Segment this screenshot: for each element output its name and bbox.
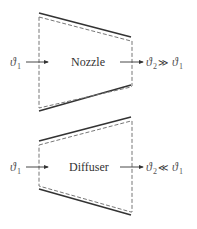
diffuser-compare-subscript: 1 bbox=[179, 167, 183, 176]
nozzle-relation: ≫ bbox=[158, 57, 168, 68]
nozzle-diffuser-figure: ϑ 1 Nozzle ϑ 2 ≫ ϑ 1 ϑ 1 Diffuser ϑ 2 ≪ … bbox=[0, 0, 197, 229]
nozzle-inlet-subscript: 1 bbox=[17, 62, 21, 71]
diffuser-outlet-subscript: 2 bbox=[153, 167, 157, 176]
nozzle-compare-subscript: 1 bbox=[179, 62, 183, 71]
diffuser-outlet-symbol: ϑ bbox=[146, 160, 153, 174]
diffuser-diagram: ϑ 1 Diffuser ϑ 2 ≪ ϑ 1 bbox=[10, 117, 183, 215]
nozzle-outlet-subscript: 2 bbox=[153, 62, 157, 71]
nozzle-outlet-symbol: ϑ bbox=[146, 55, 153, 69]
nozzle-label: Nozzle bbox=[71, 55, 105, 69]
diffuser-inlet-subscript: 1 bbox=[17, 167, 21, 176]
diffuser-inlet-symbol: ϑ bbox=[10, 160, 17, 174]
nozzle-top-wall bbox=[39, 13, 131, 37]
diffuser-label: Diffuser bbox=[69, 160, 109, 174]
diffuser-bottom-wall bbox=[39, 189, 131, 215]
nozzle-inlet-symbol: ϑ bbox=[10, 55, 17, 69]
nozzle-diagram: ϑ 1 Nozzle ϑ 2 ≫ ϑ 1 bbox=[10, 13, 183, 111]
diffuser-compare-symbol: ϑ bbox=[172, 160, 179, 174]
nozzle-compare-symbol: ϑ bbox=[172, 55, 179, 69]
diffuser-top-wall bbox=[39, 117, 131, 141]
diffuser-relation: ≪ bbox=[158, 162, 168, 173]
